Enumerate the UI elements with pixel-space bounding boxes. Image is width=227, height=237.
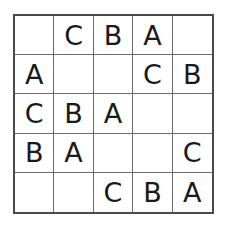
grid-cell-r0-c3[interactable]: A [133,16,172,55]
grid-cell-r0-c1[interactable]: C [54,16,93,55]
grid-cell-r4-c1[interactable] [54,173,93,212]
grid-cell-r3-c3[interactable] [133,134,172,173]
grid-cell-r1-c0[interactable]: A [15,55,54,94]
grid-cell-r0-c4[interactable] [173,16,212,55]
puzzle-grid: C B A A C B C B A B A C C B A [13,14,214,214]
grid-cell-r4-c3[interactable]: B [133,173,172,212]
grid-cell-r1-c1[interactable] [54,55,93,94]
grid-cell-r3-c4[interactable]: C [173,134,212,173]
grid-cell-r2-c0[interactable]: C [15,94,54,133]
grid-cell-r2-c3[interactable] [133,94,172,133]
grid-cell-r3-c1[interactable]: A [54,134,93,173]
grid-cell-r4-c4[interactable]: A [173,173,212,212]
grid-cell-r2-c1[interactable]: B [54,94,93,133]
grid-cell-r4-c0[interactable] [15,173,54,212]
grid-cell-r1-c4[interactable]: B [173,55,212,94]
grid-cell-r0-c2[interactable]: B [94,16,133,55]
grid-cell-r2-c2[interactable]: A [94,94,133,133]
grid-cell-r3-c0[interactable]: B [15,134,54,173]
grid-cell-r2-c4[interactable] [173,94,212,133]
grid-cell-r1-c2[interactable] [94,55,133,94]
grid-cell-r1-c3[interactable]: C [133,55,172,94]
grid-cell-r0-c0[interactable] [15,16,54,55]
grid-cell-r4-c2[interactable]: C [94,173,133,212]
grid-cell-r3-c2[interactable] [94,134,133,173]
